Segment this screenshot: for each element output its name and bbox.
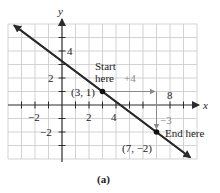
start-label-line1: Start [95,60,116,72]
start-label-line2: here [95,72,114,84]
tick-label-x-2: 2 [86,111,92,123]
run-label: +4 [124,72,136,84]
graph: y x 4 2 −2 −2 2 4 8 Start here (3, 1) +4… [0,0,220,193]
tick-label-x-8: 8 [167,89,173,101]
start-point [100,89,106,95]
x-axis-label: x [202,99,208,111]
tick-label-x-neg2: −2 [28,111,40,123]
tick-label-y-4: 4 [67,45,73,57]
y-axis-label: y [57,5,63,17]
tick-label-x-4: 4 [111,111,117,123]
end-point [154,129,160,135]
tick-label-y-neg2: −2 [40,126,52,138]
start-point-label: (3, 1) [71,86,95,99]
tick-label-y-2: 2 [48,72,54,84]
rise-label: −3 [160,114,172,126]
figure-caption: (a) [97,173,110,186]
end-label: End here [165,127,205,139]
end-point-label: (7, −2) [122,142,152,155]
